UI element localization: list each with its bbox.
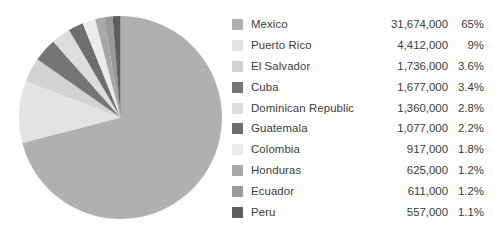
legend-row: Cuba1,677,0003.4% — [232, 77, 494, 98]
legend-color-swatch — [232, 165, 243, 176]
legend-percentage: 3.4% — [448, 81, 484, 94]
legend-row: Mexico31,674,00065% — [232, 14, 494, 35]
legend-row: Peru557,0001.1% — [232, 202, 494, 223]
legend-label: Honduras — [251, 164, 375, 177]
legend-color-swatch — [232, 207, 243, 218]
legend-label: Cuba — [251, 81, 375, 94]
legend-label: Dominican Republic — [251, 102, 375, 115]
legend-color-swatch — [232, 144, 243, 155]
legend-color-swatch — [232, 61, 243, 72]
legend-color-swatch — [232, 19, 243, 30]
legend-value: 611,000 — [375, 185, 448, 198]
legend-percentage: 9% — [448, 39, 484, 52]
legend-label: Colombia — [251, 143, 375, 156]
legend-color-swatch — [232, 123, 243, 134]
legend-value: 31,674,000 — [375, 18, 448, 31]
legend-percentage: 1.8% — [448, 143, 484, 156]
pie-chart-graphic — [19, 16, 222, 219]
legend-row: Ecuador611,0001.2% — [232, 181, 494, 202]
pie-chart-figure: Mexico31,674,00065%Puerto Rico4,412,0009… — [0, 0, 494, 231]
legend-color-swatch — [232, 186, 243, 197]
legend-label: Puerto Rico — [251, 39, 375, 52]
chart-legend: Mexico31,674,00065%Puerto Rico4,412,0009… — [232, 14, 494, 223]
legend-label: Guatemala — [251, 122, 375, 135]
legend-value: 1,677,000 — [375, 81, 448, 94]
pie-svg — [19, 16, 222, 219]
legend-percentage: 2.2% — [448, 122, 484, 135]
legend-percentage: 1.1% — [448, 206, 484, 219]
legend-label: Mexico — [251, 18, 375, 31]
legend-value: 917,000 — [375, 143, 448, 156]
legend-row: Honduras625,0001.2% — [232, 160, 494, 181]
legend-value: 557,000 — [375, 206, 448, 219]
legend-label: Ecuador — [251, 185, 375, 198]
legend-percentage: 1.2% — [448, 185, 484, 198]
legend-value: 625,000 — [375, 164, 448, 177]
legend-color-swatch — [232, 103, 243, 114]
legend-color-swatch — [232, 82, 243, 93]
legend-label: Peru — [251, 206, 375, 219]
legend-value: 1,360,000 — [375, 102, 448, 115]
legend-row: El Salvador1,736,0003.6% — [232, 56, 494, 77]
legend-value: 1,736,000 — [375, 60, 448, 73]
legend-row: Guatemala1,077,0002.2% — [232, 118, 494, 139]
legend-value: 1,077,000 — [375, 122, 448, 135]
legend-color-swatch — [232, 40, 243, 51]
legend-row: Puerto Rico4,412,0009% — [232, 35, 494, 56]
legend-percentage: 1.2% — [448, 164, 484, 177]
legend-row: Dominican Republic1,360,0002.8% — [232, 98, 494, 119]
legend-percentage: 2.8% — [448, 102, 484, 115]
legend-value: 4,412,000 — [375, 39, 448, 52]
legend-percentage: 65% — [448, 18, 484, 31]
legend-row: Colombia917,0001.8% — [232, 139, 494, 160]
pie-slice-group — [19, 16, 222, 219]
legend-percentage: 3.6% — [448, 60, 484, 73]
legend-label: El Salvador — [251, 60, 375, 73]
